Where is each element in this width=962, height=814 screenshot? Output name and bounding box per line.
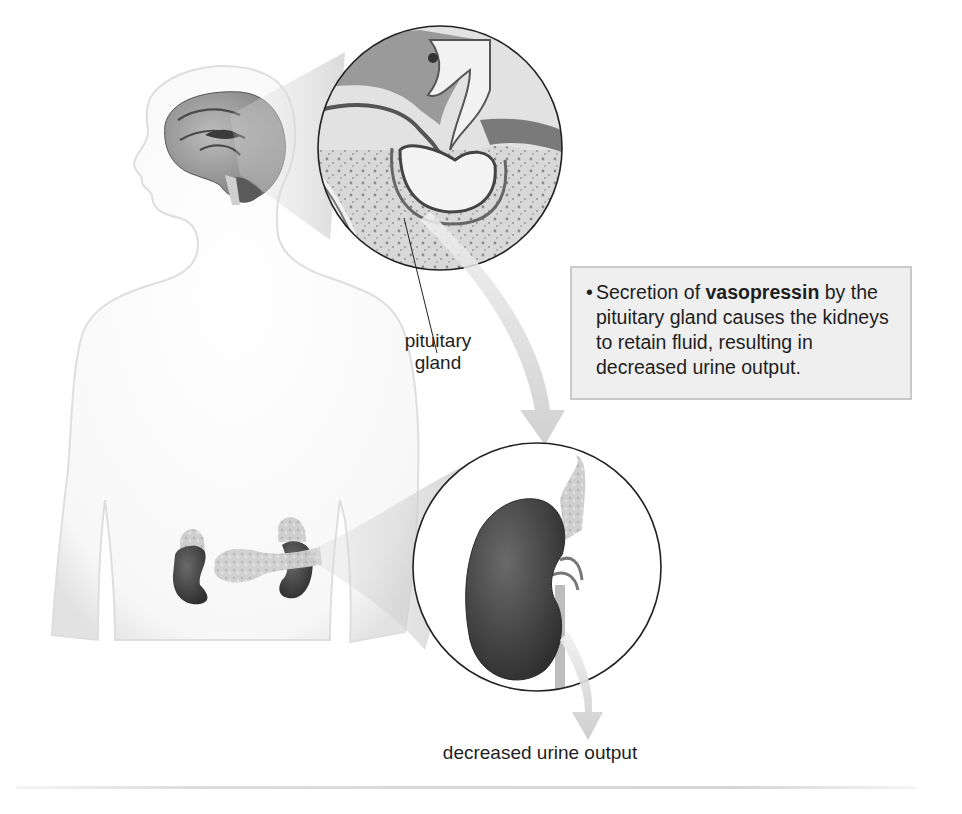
bottom-divider (16, 786, 916, 789)
pituitary-label-line1: pituitary (393, 330, 483, 352)
pituitary-label-line2: gland (393, 352, 483, 374)
pituitary-magnified-inset (310, 20, 570, 290)
kidney-magnified-inset (413, 443, 661, 705)
callout-text-before: Secretion of (596, 281, 705, 303)
pituitary-gland-label: pituitary gland (393, 330, 483, 374)
diagram-artwork (0, 0, 962, 814)
bullet-point: • (586, 280, 593, 305)
vasopressin-callout-box: • Secretion of vasopressin by the pituit… (570, 266, 912, 400)
callout-text: Secretion of vasopressin by the pituitar… (596, 280, 898, 380)
decreased-urine-output-label: decreased urine output (420, 742, 660, 764)
vasopressin-term: vasopressin (705, 281, 819, 303)
